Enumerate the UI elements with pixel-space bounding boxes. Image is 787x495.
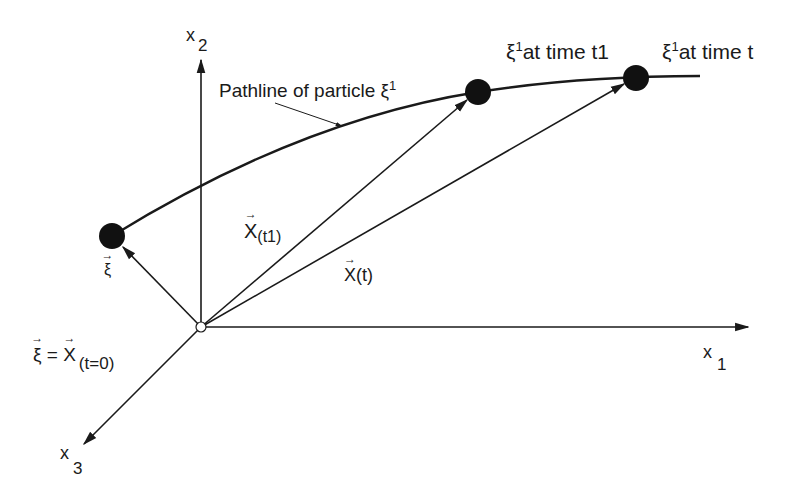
- xi-vector-symbol: ξ: [104, 262, 111, 278]
- pathline-pointer-arrow: [275, 103, 342, 126]
- x2-sub: 2: [198, 36, 207, 55]
- x-vector-symbol: X: [63, 345, 76, 364]
- particle-t: [623, 65, 649, 91]
- label-xi-at-t1: ξ1at time t1: [506, 40, 609, 62]
- x-vector-symbol: X: [344, 266, 356, 284]
- x1-base: x: [703, 342, 712, 362]
- t-subscript: (t): [356, 265, 373, 285]
- particle-t1: [465, 79, 491, 105]
- x2-axis-label: x2: [186, 26, 204, 44]
- x3-axis-label: x3: [60, 444, 78, 462]
- label-vector-xi: ξ: [104, 262, 111, 278]
- vector-x-t: [201, 84, 624, 327]
- superscript-1: 1: [671, 39, 678, 54]
- t0-subscript: (t=0): [79, 354, 114, 373]
- x3-base: x: [60, 443, 69, 463]
- t1-text: at time t1: [523, 40, 609, 63]
- t-text: at time t: [679, 40, 754, 63]
- label-vector-x-t: X(t): [344, 266, 373, 284]
- pathline-label: Pathline of particle ξ1: [219, 79, 396, 100]
- x1-sub: 1: [717, 355, 726, 374]
- xi-symbol: ξ: [381, 80, 390, 101]
- xi-symbol: ξ: [662, 40, 671, 63]
- vector-x-t1: [201, 100, 467, 327]
- initial-position-equation: ξ = X(t=0): [33, 345, 111, 364]
- equals-sign: =: [42, 344, 64, 365]
- pathline-text: Pathline of particle: [219, 80, 381, 101]
- label-vector-x-t1: X(t1): [244, 221, 281, 241]
- diagram-graphics: [0, 0, 787, 495]
- x-vector-symbol: X: [244, 221, 257, 241]
- vector-xi: [123, 247, 201, 327]
- particle-initial: [99, 223, 125, 249]
- xi-vector-symbol: ξ: [33, 345, 42, 364]
- x2-base: x: [186, 25, 195, 45]
- superscript-1: 1: [389, 78, 396, 93]
- x3-sub: 3: [73, 459, 82, 478]
- origin-point: [196, 322, 206, 332]
- t1-subscript: (t1): [257, 228, 281, 245]
- pathline-diagram: x2 x1 x3 Pathline of particle ξ1 ξ1at ti…: [0, 0, 787, 495]
- xi-symbol: ξ: [506, 40, 515, 63]
- label-xi-at-t: ξ1at time t: [662, 40, 753, 62]
- x1-axis-label: x1: [703, 343, 721, 361]
- superscript-1: 1: [515, 39, 522, 54]
